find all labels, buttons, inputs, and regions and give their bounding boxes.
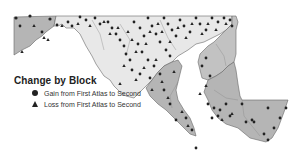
legend-label-gain: Gain from First Atlas to Second: [44, 90, 141, 97]
legend-label-loss: Loss from First Atlas to Second: [44, 101, 141, 108]
legend-item-gain: Gain from First Atlas to Second: [31, 89, 141, 97]
triangle-marker-icon: [31, 100, 39, 108]
legend-title: Change by Block: [14, 75, 141, 86]
legend: Change by Block Gain from First Atlas to…: [14, 75, 141, 108]
western-maryland-region: [14, 16, 56, 55]
legend-item-loss: Loss from First Atlas to Second: [31, 100, 141, 108]
circle-marker-icon: [31, 89, 39, 97]
